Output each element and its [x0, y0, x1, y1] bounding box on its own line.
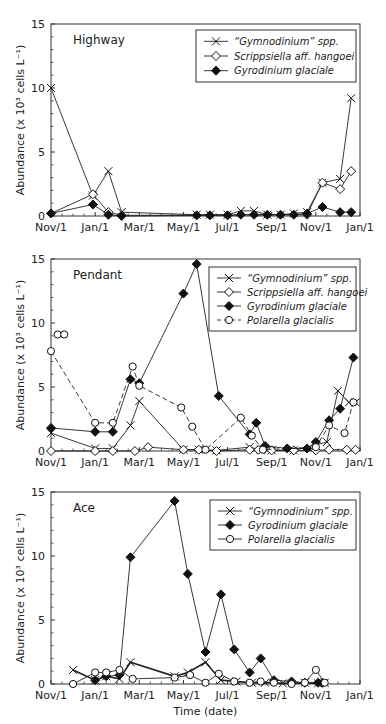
y-axis-label: Abundance (x 10³ cells L⁻¹)	[14, 280, 27, 430]
data-point	[117, 212, 126, 221]
data-point	[237, 414, 244, 421]
x-tick-label: Nov/1	[300, 221, 332, 234]
x-tick-label: Jan/1	[345, 221, 374, 234]
legend: “Gymnodinium” spp.Scrippsiella aff. hang…	[209, 267, 368, 331]
data-point	[312, 666, 319, 673]
data-point	[216, 590, 225, 599]
data-point	[342, 445, 351, 454]
data-point	[318, 203, 327, 212]
x-tick-label: Nov/1	[300, 456, 332, 469]
data-point	[289, 210, 298, 219]
data-point	[336, 185, 345, 194]
data-point	[256, 654, 265, 663]
series-line	[73, 662, 325, 683]
panel-ace: 051015Nov/1Jan/1Mar/1May/1Jul/1Sep/1Nov/…	[14, 486, 374, 718]
legend-entry: “Gymnodinium” spp.	[247, 273, 352, 284]
data-point	[248, 432, 255, 439]
data-point	[341, 429, 348, 436]
data-point	[69, 680, 76, 687]
data-point	[245, 668, 254, 677]
legend-marker	[225, 316, 232, 323]
data-point	[201, 648, 210, 657]
y-axis-label: Abundance (x 10³ cells L⁻¹)	[14, 45, 27, 195]
data-point	[136, 382, 143, 389]
x-tick-label: Nov/1	[35, 689, 67, 702]
x-tick-label: Nov/1	[35, 456, 67, 469]
panel-pendant: 051015Nov/1Jan/1Mar/1May/1Jul/1Sep/1Nov/…	[14, 253, 374, 469]
series-3	[47, 348, 357, 454]
legend: “Gymnodinium” spp.Gyrodinium glacialePol…	[210, 500, 356, 550]
x-tick-label: Jul/1	[215, 689, 240, 702]
x-tick-label: Jan/1	[80, 221, 109, 234]
data-point	[303, 444, 312, 453]
data-point	[245, 445, 254, 454]
data-point	[144, 443, 153, 452]
data-point	[47, 423, 56, 432]
data-point	[116, 666, 123, 673]
data-point	[202, 679, 209, 686]
data-point	[130, 447, 139, 456]
x-tick-label: May/1	[167, 456, 200, 469]
data-point	[312, 444, 319, 451]
data-point	[47, 447, 56, 456]
y-tick-label: 5	[38, 614, 45, 627]
panel-label: Pendant	[73, 268, 122, 282]
y-tick-label: 15	[31, 18, 45, 31]
x-tick-label: Sep/1	[256, 456, 287, 469]
x-tick-label: Jan/1	[345, 456, 374, 469]
data-point	[92, 419, 99, 426]
panel-highway: 051015Nov/1Jan/1Mar/1May/1Jul/1Sep/1Nov/…	[14, 18, 374, 234]
data-point	[325, 445, 334, 454]
y-tick-label: 15	[31, 253, 45, 266]
data-point	[108, 427, 117, 436]
legend-entry: Gyrodinium glaciale	[248, 520, 348, 531]
legend-entry: Gyrodinium glaciale	[247, 301, 347, 312]
data-point	[108, 447, 117, 456]
data-point	[326, 422, 333, 429]
data-point	[351, 445, 360, 454]
data-point	[91, 427, 100, 436]
y-tick-label: 5	[38, 146, 45, 159]
legend-entry: Scrippsiella aff. hangoei	[234, 51, 355, 62]
x-tick-label: Mar/1	[124, 456, 155, 469]
data-point	[91, 447, 100, 456]
data-point	[179, 289, 188, 298]
data-point	[192, 260, 201, 269]
data-point	[202, 446, 209, 453]
x-tick-label: May/1	[167, 689, 200, 702]
x-tick-label: Sep/1	[256, 221, 287, 234]
y-tick-label: 5	[38, 381, 45, 394]
x-tick-label: Mar/1	[124, 689, 155, 702]
y-tick-label: 10	[31, 317, 45, 330]
data-point	[109, 419, 116, 426]
x-tick-label: Jan/1	[80, 689, 109, 702]
x-tick-label: Nov/1	[35, 221, 67, 234]
data-point	[178, 404, 185, 411]
x-tick-label: May/1	[167, 221, 200, 234]
data-point	[126, 553, 135, 562]
x-tick-label: Sep/1	[256, 689, 287, 702]
y-tick-label: 10	[31, 82, 45, 95]
data-point	[54, 331, 61, 338]
data-point	[129, 675, 136, 682]
data-point	[189, 423, 196, 430]
data-point	[257, 678, 264, 685]
legend-entry: Gyrodinium glaciale	[234, 65, 334, 76]
data-point	[61, 331, 68, 338]
legend: “Gymnodinium” spp.Scrippsiella aff. hang…	[196, 30, 356, 82]
panel-label: Ace	[73, 501, 95, 515]
x-tick-label: Jul/1	[215, 456, 240, 469]
data-point	[129, 363, 136, 370]
chart-figure: 051015Nov/1Jan/1Mar/1May/1Jul/1Sep/1Nov/…	[0, 0, 386, 724]
data-point	[349, 353, 358, 362]
data-point	[92, 669, 99, 676]
y-tick-label: 10	[31, 550, 45, 563]
x-tick-label: Jan/1	[80, 456, 109, 469]
data-point	[301, 679, 308, 686]
data-point	[259, 446, 266, 453]
data-point	[171, 674, 178, 681]
data-point	[321, 679, 328, 686]
data-point	[88, 200, 97, 209]
legend-entry: “Gymnodinium” spp.	[248, 506, 353, 517]
series-4	[54, 331, 68, 338]
